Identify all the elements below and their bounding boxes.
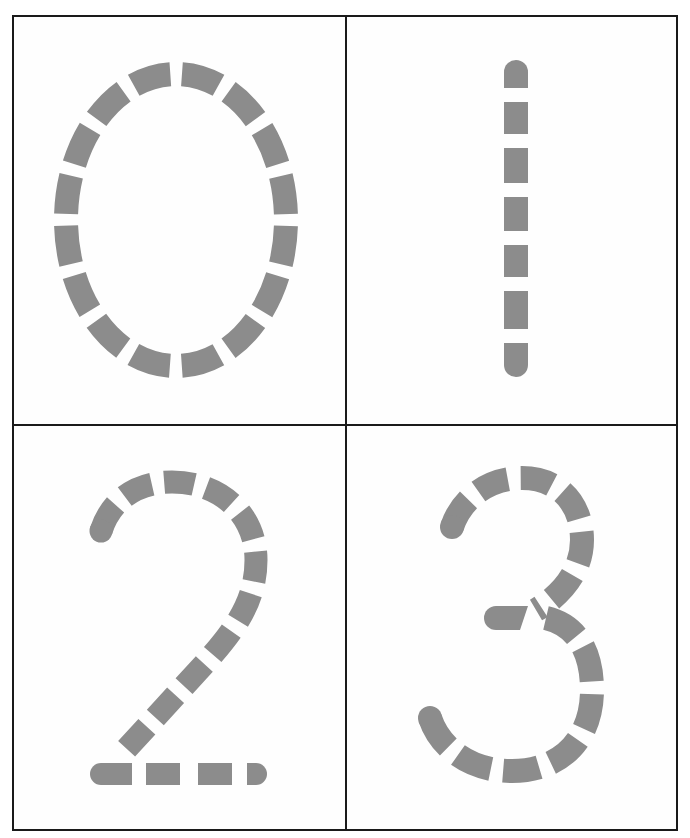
digit-2-curve-trace[interactable] — [101, 482, 256, 756]
digit-1-segment[interactable] — [504, 148, 528, 183]
digit-3-top-cap — [440, 515, 464, 539]
card-digit-3 — [418, 478, 592, 771]
digit-1-segment[interactable] — [504, 291, 528, 329]
digit-1-segment[interactable] — [504, 60, 528, 88]
digit-1-segment[interactable] — [504, 197, 528, 231]
digit-2-base-bar[interactable] — [90, 763, 267, 785]
digit-2-start-cap — [90, 520, 113, 543]
card-digit-0 — [66, 74, 286, 366]
digit-0-trace-path[interactable] — [66, 74, 286, 366]
digit-3-middle-bar[interactable] — [484, 606, 528, 630]
digit-3-bottom-bowl-trace[interactable] — [430, 618, 592, 771]
digit-1-segment[interactable] — [504, 245, 528, 277]
tracing-digits — [0, 0, 690, 838]
card-digit-1 — [504, 60, 528, 377]
digit-3-top-bowl-trace[interactable] — [452, 478, 582, 610]
card-digit-2 — [90, 482, 268, 785]
digit-1-segment[interactable] — [504, 102, 528, 134]
digit-3-bottom-cap — [418, 706, 442, 730]
digit-1-segment[interactable] — [504, 343, 528, 377]
